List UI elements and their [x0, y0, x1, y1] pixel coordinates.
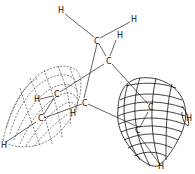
atom-h6: H	[1, 141, 7, 150]
right-solid-lobe	[118, 78, 189, 167]
atom-h2: H	[131, 15, 137, 24]
atom-c5: C	[38, 114, 44, 123]
molecular-orbital-figure: H H C H C C H C H C H C H C H	[0, 0, 195, 174]
atom-h3: H	[117, 31, 123, 40]
left-dashed-lobe	[3, 66, 81, 147]
atom-c3: C	[54, 90, 60, 99]
atom-c1: C	[94, 37, 100, 46]
atom-h1: H	[58, 6, 64, 15]
atom-c4: C	[82, 99, 88, 108]
atom-h5: H	[70, 109, 76, 118]
atom-c6: C	[148, 103, 154, 112]
atom-c7: C	[135, 126, 141, 135]
atom-h8: H	[158, 162, 164, 171]
bonds	[6, 14, 158, 162]
atom-h7: H	[186, 114, 192, 123]
atom-c2: C	[106, 57, 112, 66]
atom-h4: H	[34, 95, 40, 104]
